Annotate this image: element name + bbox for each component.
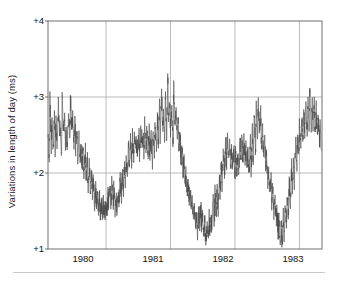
y-tick-label-4: +4: [22, 15, 44, 26]
chart-plot-area: [0, 0, 337, 283]
y-tick-label-1: +1: [22, 243, 44, 254]
x-tick-label-1983: 1983: [273, 253, 313, 264]
figure-root: Variations in length of day (ms) +4 +3 +…: [0, 0, 337, 283]
y-tick-label-3: +3: [22, 91, 44, 102]
y-tick-label-2: +2: [22, 167, 44, 178]
footer-divider-rule: [13, 272, 325, 273]
y-axis-label: Variations in length of day (ms): [2, 0, 20, 283]
y-axis-label-container: Variations in length of day (ms): [2, 0, 20, 283]
x-tick-label-1980: 1980: [63, 253, 103, 264]
x-tick-label-1982: 1982: [203, 253, 243, 264]
x-tick-label-1981: 1981: [133, 253, 173, 264]
